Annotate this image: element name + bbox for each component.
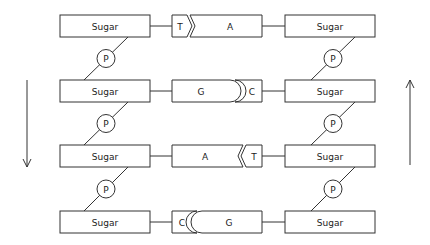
base-g-label: G [226,218,233,228]
left-sugar-label: Sugar [92,152,119,162]
base-g [172,80,241,102]
row-1: Sugar T A Sugar [60,15,375,37]
arrow-up-icon [406,80,414,165]
base-a-label: A [202,152,209,162]
base-t-label: T [250,152,257,162]
phosphate-label: P [103,119,109,129]
left-phosphates: P P P [84,37,128,211]
row-2: Sugar G C Sugar [60,80,375,102]
base-a-label: A [227,22,234,32]
base-g-label: G [198,87,205,97]
phosphate-label: P [330,54,336,64]
phosphate-label: P [330,119,336,129]
base-c-label: C [249,87,255,97]
phosphate-label: P [330,185,336,195]
phosphate-label: P [103,185,109,195]
row-4: Sugar C G Sugar [60,211,375,233]
right-sugar-label: Sugar [317,152,344,162]
phosphate-label: P [103,54,109,64]
base-t-label: T [176,22,183,32]
arrow-down-icon [23,80,31,167]
right-sugar-label: Sugar [317,87,344,97]
left-sugar-label: Sugar [92,218,119,228]
right-sugar-label: Sugar [317,218,344,228]
left-sugar-label: Sugar [92,22,119,32]
base-c-label: C [179,218,185,228]
left-sugar-label: Sugar [92,87,119,97]
dna-diagram: Sugar T A Sugar Sugar G C Sugar Sugar A … [0,0,430,245]
right-phosphates: P P P [311,37,355,211]
right-sugar-label: Sugar [317,22,344,32]
row-3: Sugar A T Sugar [60,145,375,167]
